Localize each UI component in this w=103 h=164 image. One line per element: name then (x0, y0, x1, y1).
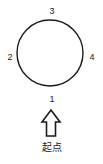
route-label-1: 1 (44, 95, 60, 104)
start-point-caption: 起点 (0, 142, 103, 154)
route-loop-circle (17, 20, 83, 86)
route-label-4: 4 (85, 53, 99, 62)
diagram-canvas (0, 0, 103, 164)
route-label-2: 2 (3, 53, 17, 62)
route-label-3: 3 (44, 7, 60, 16)
start-direction-arrow-icon (42, 110, 60, 136)
circular-route-diagram: 3 2 4 1 起点 (0, 0, 103, 164)
